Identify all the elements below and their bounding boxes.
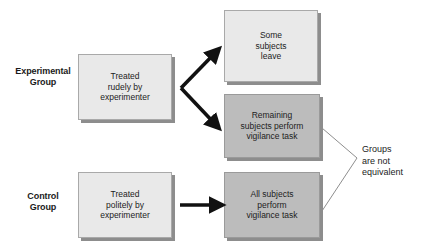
split-arrow-up-icon bbox=[181, 52, 216, 88]
box-remaining-subjects-perform[interactable]: Remaining subjects perform vigilance tas… bbox=[224, 94, 320, 158]
connector-layer bbox=[0, 0, 423, 252]
box-all-subjects-perform[interactable]: All subjects perform vigilance task bbox=[224, 172, 320, 238]
box-treated-rudely-text: Treated rudely by experimenter bbox=[97, 71, 153, 103]
box-treated-politely-text: Treated politely by experimenter bbox=[97, 189, 153, 221]
box-remaining-subjects-perform-text: Remaining subjects perform vigilance tas… bbox=[238, 110, 307, 142]
groups-not-equivalent-note: Groups are not equivalent bbox=[362, 144, 422, 179]
box-some-subjects-leave-text: Some subjects leave bbox=[252, 30, 289, 62]
experimental-group-label: Experimental Group bbox=[4, 66, 82, 88]
diagram-canvas: Experimental Group Control Group Treated… bbox=[0, 0, 423, 252]
box-all-subjects-perform-text: All subjects perform vigilance task bbox=[243, 189, 300, 221]
box-treated-rudely[interactable]: Treated rudely by experimenter bbox=[78, 54, 172, 120]
comparison-bracket-icon bbox=[322, 128, 357, 211]
split-arrow-down-icon bbox=[181, 88, 216, 125]
box-some-subjects-leave[interactable]: Some subjects leave bbox=[224, 10, 318, 82]
box-treated-politely[interactable]: Treated politely by experimenter bbox=[78, 172, 172, 238]
control-group-label: Control Group bbox=[4, 191, 82, 213]
